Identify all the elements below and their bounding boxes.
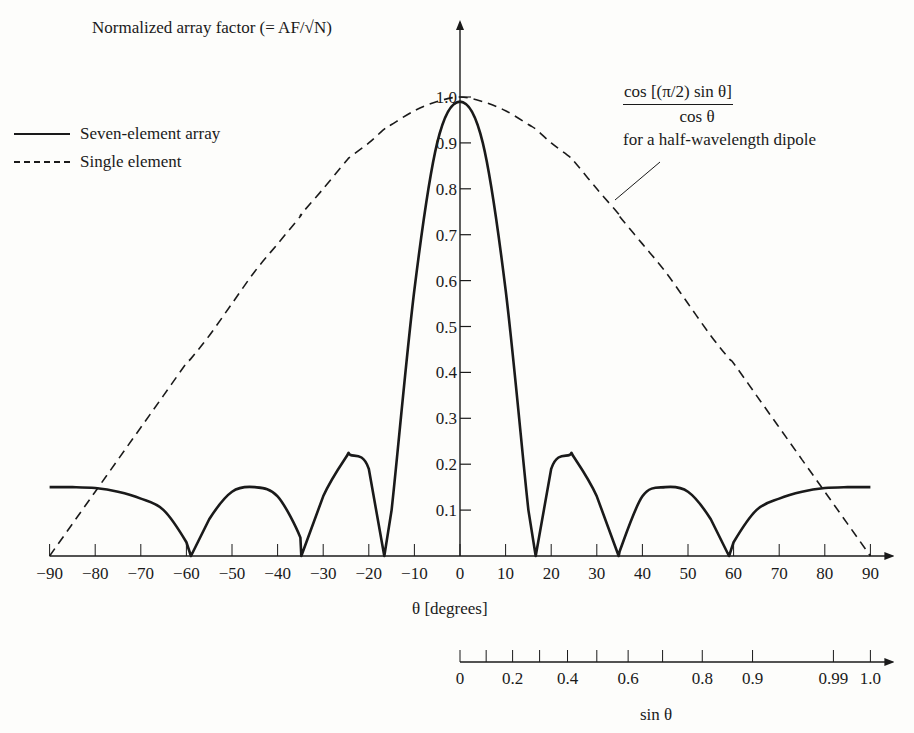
x-tick-label: 40	[634, 564, 651, 583]
element-pattern-annotation: cos [(π/2) sin θ] cos θ for a half-wavel…	[623, 82, 816, 150]
x-tick-label: 0	[456, 564, 465, 583]
x-tick-label: 10	[497, 564, 514, 583]
y-tick-label: 0.6	[436, 272, 457, 291]
x-tick-label: −80	[82, 564, 109, 583]
legend-item-seven-element: Seven-element array	[14, 120, 220, 148]
legend: Seven-element array Single element	[14, 120, 220, 176]
sin-tick-label: 0.9	[742, 669, 763, 688]
legend-label: Single element	[80, 152, 182, 172]
x-tick-label: 80	[816, 564, 833, 583]
solid-line-swatch	[14, 133, 70, 135]
x-tick-label: 90	[862, 564, 879, 583]
x-tick-label: 20	[543, 564, 560, 583]
x-tick-label: −40	[264, 564, 291, 583]
annotation-leader-line	[615, 162, 660, 200]
y-tick-label: 0.7	[436, 226, 458, 245]
sin-tick-label: 0.2	[502, 669, 523, 688]
x-tick-label: −70	[128, 564, 155, 583]
dashed-line-swatch	[14, 161, 70, 163]
sin-tick-label: 0.4	[557, 669, 579, 688]
y-tick-label: 0.5	[436, 318, 457, 337]
y-axis-title: Normalized array factor (= AF/√N)	[92, 18, 332, 38]
y-tick-label: 0.2	[436, 455, 457, 474]
x-tick-label: 50	[680, 564, 697, 583]
legend-label: Seven-element array	[80, 124, 220, 144]
x-tick-label: 60	[725, 564, 742, 583]
sin-tick-label: 0	[456, 669, 465, 688]
x-tick-label: 30	[588, 564, 605, 583]
x-tick-label: −20	[356, 564, 383, 583]
x-axis-title: θ [degrees]	[412, 599, 488, 619]
sin-tick-label: 0.8	[692, 669, 713, 688]
sin-tick-label: 0.99	[819, 669, 849, 688]
sin-tick-label: 1.0	[860, 669, 881, 688]
sin-axis-title: sin θ	[640, 705, 672, 725]
y-tick-label: 0.1	[436, 501, 457, 520]
x-tick-label: −90	[36, 564, 63, 583]
legend-item-single-element: Single element	[14, 148, 220, 176]
sin-tick-label: 0.6	[618, 669, 639, 688]
formula-numerator: cos [(π/2) sin θ]	[623, 82, 733, 105]
x-tick-label: −10	[401, 564, 428, 583]
x-tick-label: −60	[173, 564, 200, 583]
y-tick-label: 0.8	[436, 180, 457, 199]
y-tick-label: 0.4	[436, 363, 458, 382]
x-tick-label: 70	[771, 564, 788, 583]
formula-note: for a half-wavelength dipole	[623, 130, 816, 150]
y-tick-label: 0.3	[436, 409, 457, 428]
x-tick-label: −30	[310, 564, 337, 583]
formula-denominator: cos θ	[623, 107, 771, 127]
x-tick-label: −50	[219, 564, 246, 583]
